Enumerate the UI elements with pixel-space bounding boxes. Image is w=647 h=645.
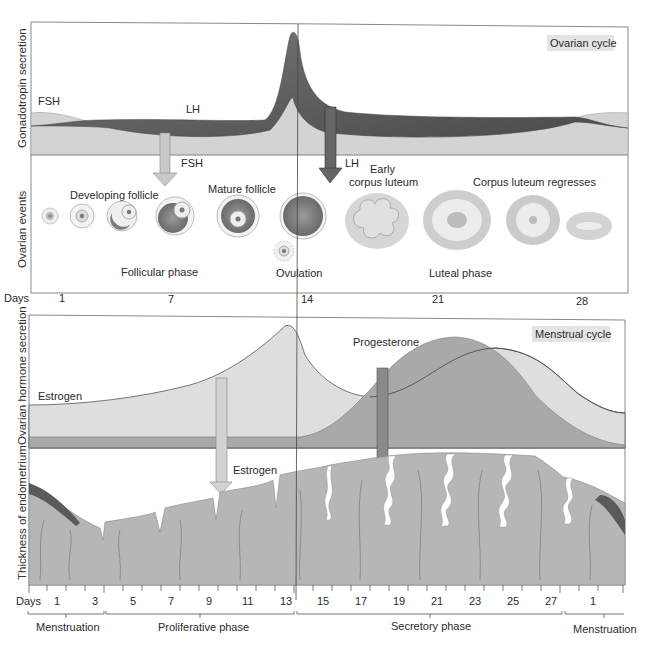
thickness-endometrium-axis-label: Thickness of endometrium xyxy=(16,445,28,580)
phase-label-menstruation: Menstruation xyxy=(36,621,100,633)
ovarian-day-tick: 1 xyxy=(59,292,65,304)
menstrual-day-tick: 9 xyxy=(206,595,212,607)
gonadotropin-secretion-axis-label: Gonadotropin secretion xyxy=(16,28,28,148)
menstrual-day-tick: 3 xyxy=(92,595,98,607)
menstrual-cycle-tag: Menstrual cycle xyxy=(535,328,611,340)
cycle-diagram: Ovarian cycle FSH LH FSH LH Developing f… xyxy=(0,0,647,645)
lh-label: LH xyxy=(186,103,200,115)
phase-brackets xyxy=(28,611,624,618)
early-corpus-luteum-label-1: Early xyxy=(370,163,396,175)
menstrual-day-tick: 21 xyxy=(431,595,443,607)
progesterone-label: Progesterone xyxy=(353,336,419,348)
day-ticks xyxy=(29,585,623,593)
estrogen-arrow-label: Estrogen xyxy=(233,464,277,476)
early-corpus-luteum-label-2: corpus luteum xyxy=(349,176,418,188)
corpus-luteum-illustrations xyxy=(345,190,612,250)
ovarian-days-label: Days xyxy=(4,292,30,304)
ovarian-day-tick: 14 xyxy=(301,293,313,305)
ovarian-events-axis-label: Ovarian events xyxy=(16,190,28,268)
menstrual-day-tick: 7 xyxy=(168,595,174,607)
menstrual-days-label: Days xyxy=(16,595,42,607)
ovulation-label: Ovulation xyxy=(276,267,322,279)
menstrual-day-tick: 1 xyxy=(54,595,60,607)
fsh-arrow-label: FSH xyxy=(181,157,203,169)
menstrual-day-tick: 19 xyxy=(393,595,405,607)
menstrual-day-tick: 11 xyxy=(242,595,253,607)
corpus-luteum-regresses-label: Corpus luteum regresses xyxy=(473,176,596,188)
menstrual-day-tick: 5 xyxy=(130,595,136,607)
ovarian-cycle-tag: Ovarian cycle xyxy=(550,37,617,49)
menstrual-day-tick: 1 xyxy=(590,595,596,607)
menstrual-day-tick: 25 xyxy=(507,595,519,607)
ovarian-day-tick: 7 xyxy=(168,293,174,305)
lh-arrow-label: LH xyxy=(345,157,359,169)
ovarian-cycle-panel: Ovarian cycle FSH LH FSH LH Developing f… xyxy=(4,22,628,307)
ovarian-day-tick: 21 xyxy=(432,293,444,305)
menstrual-day-tick: 23 xyxy=(469,595,481,607)
menstrual-day-tick: 27 xyxy=(545,595,557,607)
fsh-label: FSH xyxy=(38,95,60,107)
phase-label-secretory: Secretory phase xyxy=(391,620,471,632)
luteal-phase-label: Luteal phase xyxy=(429,267,492,279)
menstrual-day-tick: 15 xyxy=(317,595,329,607)
menstrual-cycle-panel: Menstrual cycle Estrogen Progesterone Es… xyxy=(16,306,637,635)
mature-follicle-label: Mature follicle xyxy=(208,183,276,195)
developing-follicle-label: Developing follicle xyxy=(70,189,159,201)
phase-label-proliferative: Proliferative phase xyxy=(158,621,249,633)
phase-label-menstruation-2: Menstruation xyxy=(573,623,637,635)
menstrual-day-tick: 17 xyxy=(355,595,367,607)
menstrual-day-tick: 13 xyxy=(280,595,292,607)
follicle-illustrations xyxy=(42,193,326,261)
follicular-phase-label: Follicular phase xyxy=(121,266,198,278)
estrogen-label: Estrogen xyxy=(38,390,82,402)
ovarian-day-tick: 28 xyxy=(576,295,588,307)
ovarian-hormone-secretion-axis-label: Ovarian hormone secretion xyxy=(16,306,28,445)
